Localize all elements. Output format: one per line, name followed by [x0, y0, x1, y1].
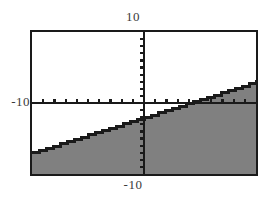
y-axis-min-label: -10 — [0, 178, 266, 191]
graph-screenshot: 10 -10 -10 — [0, 0, 266, 200]
plot-frame — [30, 30, 258, 176]
x-axis-min-label: -10 — [2, 95, 30, 108]
y-axis-max-label: 10 — [0, 10, 266, 23]
plot-canvas — [32, 32, 256, 174]
